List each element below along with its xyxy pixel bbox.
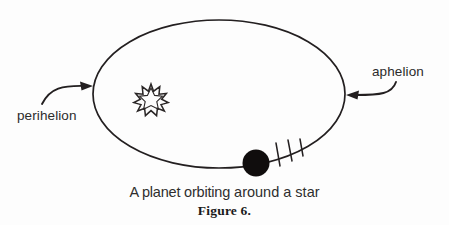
aphelion-arrow xyxy=(346,82,396,100)
planet-body xyxy=(243,150,270,177)
orbit-figure: perihelion aphelion A planet orbiting ar… xyxy=(0,0,449,225)
perihelion-arrow xyxy=(42,82,93,105)
motion-tick-marks xyxy=(276,139,303,166)
figure-caption: A planet orbiting around a star xyxy=(0,184,449,200)
figure-caption-part-2: around a star xyxy=(234,184,319,200)
star-icon xyxy=(134,84,168,116)
aphelion-label: aphelion xyxy=(372,64,424,79)
elliptical-orbit-path xyxy=(93,20,345,168)
figure-number-label: Figure 6. xyxy=(0,203,449,219)
figure-caption-part-1: A planet orbiting xyxy=(129,184,230,200)
perihelion-label: perihelion xyxy=(17,108,77,123)
